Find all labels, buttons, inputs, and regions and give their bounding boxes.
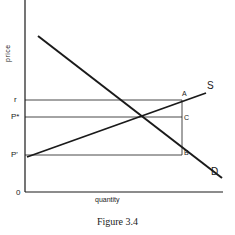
origin-label: 0 (16, 189, 20, 197)
x-axis-label: quantity (95, 196, 120, 203)
y-axis-label: price (4, 44, 11, 62)
demand-label: D (211, 168, 218, 176)
label-r: r (14, 96, 17, 104)
label-p-star: P* (11, 113, 19, 121)
demand-curve (38, 36, 222, 178)
label-p-prime: P' (11, 151, 18, 159)
point-b-label: B (184, 149, 189, 157)
supply-curve (27, 93, 206, 157)
point-a-label: A (182, 90, 187, 98)
supply-label: S (207, 82, 214, 90)
figure-caption: Figure 3.4 (0, 216, 235, 227)
point-c-label: C (184, 114, 189, 122)
